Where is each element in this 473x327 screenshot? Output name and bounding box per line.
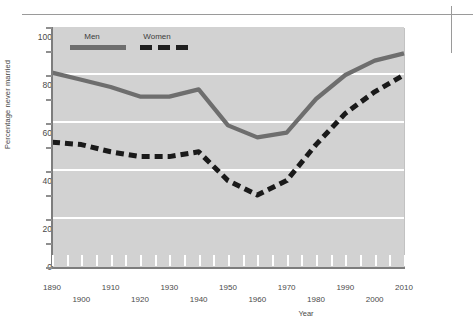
x-tick-1900 — [81, 255, 83, 266]
x-tick-1950 — [228, 255, 230, 266]
x-tick-label-1990: 1990 — [328, 283, 362, 292]
x-tick-1895 — [67, 255, 69, 266]
x-tick-label-2010: 2010 — [387, 283, 421, 292]
y-tick-30 — [46, 195, 52, 197]
x-tick-label-1970: 1970 — [270, 283, 304, 292]
x-tick-1965 — [272, 255, 274, 266]
x-tick-1890 — [52, 255, 54, 266]
series-line-men — [52, 53, 404, 137]
chart-figure: Percentage never married 100 80 60 40 20… — [0, 0, 473, 327]
x-tick-1905 — [96, 255, 98, 266]
y-tick-80 — [46, 75, 52, 77]
x-tick-1920 — [140, 255, 142, 266]
x-tick-1995 — [360, 255, 362, 266]
x-tick-1990 — [345, 255, 347, 266]
x-tick-1970 — [287, 255, 289, 266]
y-tick-100 — [46, 27, 52, 29]
x-tick-label-1890: 1890 — [35, 283, 69, 292]
y-axis: Percentage never married 100 80 60 40 20… — [0, 0, 52, 267]
x-tick-1945 — [213, 255, 215, 266]
y-tick-10 — [46, 243, 52, 245]
x-tick-2010 — [404, 255, 406, 266]
x-tick-label-1930: 1930 — [152, 283, 186, 292]
y-tick-70 — [46, 99, 52, 101]
x-tick-label-1900: 1900 — [64, 295, 98, 304]
series-layer — [52, 27, 404, 267]
page-rule-vertical — [451, 6, 452, 53]
x-axis-title: Year — [286, 309, 326, 318]
x-tick-label-1960: 1960 — [240, 295, 274, 304]
x-tick-1975 — [301, 255, 303, 266]
y-tick-label-100: 100 — [8, 32, 52, 42]
y-tick-40 — [46, 171, 52, 173]
y-tick-20 — [46, 219, 52, 221]
x-tick-2000 — [375, 255, 377, 266]
page-rule-horizontal — [22, 14, 473, 15]
x-tick-label-1950: 1950 — [211, 283, 245, 292]
x-tick-1980 — [316, 255, 318, 266]
y-tick-90 — [46, 51, 52, 53]
x-tick-label-1910: 1910 — [94, 283, 128, 292]
x-tick-label-1940: 1940 — [182, 295, 216, 304]
x-tick-1910 — [111, 255, 113, 266]
x-tick-1915 — [125, 255, 127, 266]
x-tick-1960 — [257, 255, 259, 266]
x-tick-label-1980: 1980 — [299, 295, 333, 304]
y-tick-50 — [46, 147, 52, 149]
y-tick-label-20: 20 — [8, 224, 52, 234]
y-tick-label-40: 40 — [8, 176, 52, 186]
x-tick-1985 — [331, 255, 333, 266]
x-tick-label-2000: 2000 — [358, 295, 392, 304]
x-tick-1930 — [169, 255, 171, 266]
y-tick-60 — [46, 123, 52, 125]
x-tick-1935 — [184, 255, 186, 266]
x-tick-1940 — [199, 255, 201, 266]
y-axis-title: Percentage never married — [3, 20, 12, 190]
x-tick-2005 — [389, 255, 391, 266]
x-tick-1925 — [155, 255, 157, 266]
series-line-women — [52, 75, 404, 195]
x-axis-spine — [51, 267, 405, 269]
x-tick-label-1920: 1920 — [123, 295, 157, 304]
x-tick-1955 — [243, 255, 245, 266]
y-tick-label-60: 60 — [8, 128, 52, 138]
plot-area: Men Women — [52, 27, 404, 267]
y-tick-0 — [46, 267, 52, 269]
y-tick-label-80: 80 — [8, 80, 52, 90]
